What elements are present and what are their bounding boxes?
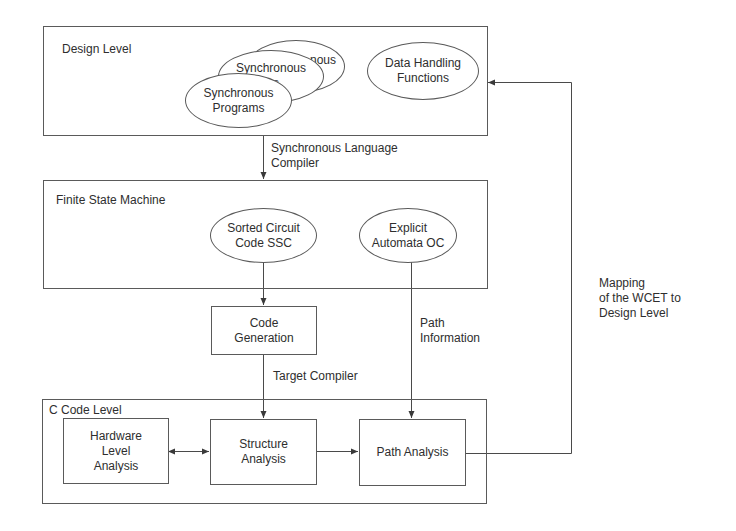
- sorted-circuit-code-ellipse: Sorted Circuit Code SSC: [210, 208, 317, 263]
- synchronous-programs-ellipse-front: Synchronous Programs: [185, 73, 292, 128]
- structure-analysis-box: Structure Analysis: [210, 419, 317, 485]
- target-compiler-label: Target Compiler: [273, 369, 358, 384]
- design-level-title: Design Level: [62, 42, 131, 56]
- explicit-automata-ellipse: Explicit Automata OC: [359, 208, 457, 263]
- finite-state-machine-title: Finite State Machine: [56, 193, 165, 207]
- code-generation-box: Code Generation: [211, 306, 317, 355]
- path-analysis-box: Path Analysis: [359, 419, 466, 486]
- path-information-label: Path Information: [420, 316, 480, 346]
- sync-language-compiler-label: Synchronous Language Compiler: [271, 141, 398, 171]
- c-code-level-title: C Code Level: [49, 403, 122, 417]
- wcet-flow-diagram: Design Level nous Synchronous ms Synchro…: [0, 0, 736, 531]
- hardware-level-analysis-box: Hardware Level Analysis: [63, 418, 169, 484]
- data-handling-functions-ellipse: Data Handling Functions: [367, 42, 479, 100]
- mapping-wcet-label: Mapping of the WCET to Design Level: [599, 276, 681, 321]
